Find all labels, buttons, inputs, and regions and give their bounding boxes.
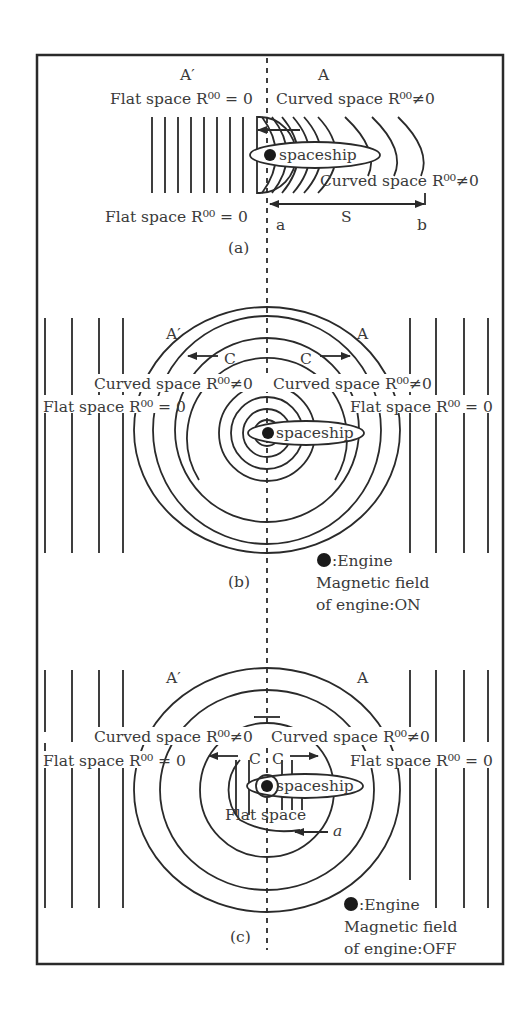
legend-field-line2: of engine:OFF bbox=[344, 940, 457, 958]
panel-b: A′ A C C Curved space R⁰⁰≠0 Curved space… bbox=[42, 307, 498, 614]
legend-engine-label: :Engine bbox=[359, 896, 420, 914]
flat-space-label-right: Flat space R⁰⁰ = 0 bbox=[350, 752, 493, 770]
flat-space-label-bottom: Flat space R⁰⁰ = 0 bbox=[105, 208, 248, 226]
panel-c: A′ A Curved space R⁰⁰≠0 Curved space R⁰⁰… bbox=[42, 668, 498, 958]
curved-space-label-right: Curved space R⁰⁰≠0 bbox=[271, 728, 430, 746]
flat-space-label-top: Flat space R⁰⁰ = 0 bbox=[110, 90, 253, 108]
c-label-left: C bbox=[249, 750, 261, 768]
flat-lines-left bbox=[45, 670, 123, 908]
c-label-left: C bbox=[224, 350, 236, 368]
curved-space-label-top: Curved space R⁰⁰≠0 bbox=[276, 90, 435, 108]
region-label-a: A bbox=[356, 325, 369, 343]
curved-space-label-lower: Curved space R⁰⁰≠0 bbox=[320, 172, 479, 190]
spaceship-label: spaceship bbox=[279, 146, 357, 164]
caption-c: (c) bbox=[230, 928, 251, 946]
region-label-a: A bbox=[317, 66, 330, 84]
spaceship-curved-space-diagram: A′ A Flat space R⁰⁰ = 0 Curved space R⁰⁰… bbox=[0, 0, 532, 1015]
point-b-label: b bbox=[417, 216, 427, 234]
legend-field-line2: of engine:ON bbox=[316, 596, 421, 614]
caption-b: (b) bbox=[228, 573, 250, 591]
engine-dot bbox=[262, 427, 274, 439]
flat-space-label-left: Flat space R⁰⁰ = 0 bbox=[43, 398, 186, 416]
c-label-right: C bbox=[300, 350, 312, 368]
flat-space-label-left: Flat space R⁰⁰ = 0 bbox=[43, 752, 186, 770]
engine-dot bbox=[261, 780, 273, 792]
spaceship-label: spaceship bbox=[276, 424, 354, 442]
point-a-label: a bbox=[276, 216, 285, 234]
flat-space-lines bbox=[152, 117, 243, 193]
legend-field-line1: Magnetic field bbox=[344, 918, 457, 936]
legend-engine-label: :Engine bbox=[332, 552, 393, 570]
flat-lines-right bbox=[410, 670, 488, 908]
c-label-right: C bbox=[272, 750, 284, 768]
engine-dot bbox=[264, 149, 276, 161]
legend-engine-dot bbox=[344, 897, 358, 911]
caption-a: (a) bbox=[228, 239, 249, 257]
spaceship-label: spaceship bbox=[276, 777, 354, 795]
distance-s-label: S bbox=[341, 208, 352, 226]
region-label-a-prime: A′ bbox=[179, 66, 195, 84]
inner-flat-space-label: Flat space bbox=[225, 806, 306, 824]
curved-space-label-left: Curved space R⁰⁰≠0 bbox=[94, 728, 253, 746]
region-label-a: A bbox=[356, 669, 369, 687]
panel-a: A′ A Flat space R⁰⁰ = 0 Curved space R⁰⁰… bbox=[105, 66, 479, 257]
flat-lines-right bbox=[410, 318, 488, 553]
flat-lines-left bbox=[45, 318, 123, 553]
region-label-a-prime: A′ bbox=[165, 669, 181, 687]
legend-field-line1: Magnetic field bbox=[316, 574, 429, 592]
legend-engine-dot bbox=[317, 553, 331, 567]
region-label-a-prime: A′ bbox=[165, 325, 181, 343]
curved-space-label-right: Curved space R⁰⁰≠0 bbox=[273, 375, 432, 393]
flat-space-label-right: Flat space R⁰⁰ = 0 bbox=[350, 398, 493, 416]
alpha-label: a bbox=[333, 822, 342, 840]
curved-space-label-left: Curved space R⁰⁰≠0 bbox=[94, 375, 253, 393]
